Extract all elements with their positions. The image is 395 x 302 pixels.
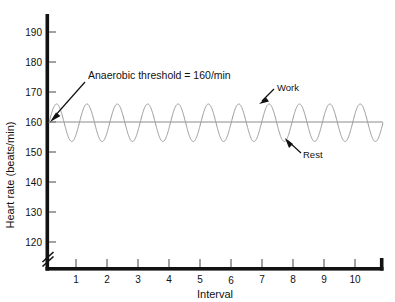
y-axis: 190 180 170 160 150 140 130 120 Heart ra… bbox=[4, 14, 56, 267]
rest-annotation-label: Rest bbox=[303, 149, 323, 160]
y-axis-bar bbox=[46, 14, 50, 260]
x-tick-label-4: 4 bbox=[166, 274, 172, 285]
threshold-annotation-label: Anaerobic threshold = 160/min bbox=[88, 69, 231, 81]
work-annotation-label: Work bbox=[277, 82, 299, 93]
x-tick-label-9: 9 bbox=[321, 274, 327, 285]
x-axis-ticks bbox=[76, 259, 355, 267]
x-tick-label-2: 2 bbox=[104, 274, 110, 285]
y-tick-label-180: 180 bbox=[25, 57, 42, 68]
y-tick-label-120: 120 bbox=[25, 237, 42, 248]
work-annotation: Work bbox=[259, 82, 299, 104]
x-tick-label-6: 6 bbox=[228, 275, 234, 286]
y-tick-label-170: 170 bbox=[25, 87, 42, 98]
x-tick-label-8: 8 bbox=[290, 274, 296, 285]
y-tick-label-150: 150 bbox=[25, 147, 42, 158]
rest-annotation: Rest bbox=[285, 138, 323, 160]
heart-rate-waveform bbox=[49, 104, 383, 142]
x-axis-tick-labels: 1 2 3 4 5 6 7 8 9 10 bbox=[73, 274, 361, 286]
x-tick-label-7: 7 bbox=[259, 274, 265, 285]
x-axis-title: Interval bbox=[197, 288, 233, 300]
y-tick-label-190: 190 bbox=[25, 27, 42, 38]
x-tick-label-3: 3 bbox=[135, 274, 141, 285]
chart-figure: 190 180 170 160 150 140 130 120 Heart ra… bbox=[0, 0, 395, 302]
x-tick-label-10: 10 bbox=[349, 274, 361, 285]
x-axis-bar bbox=[46, 267, 384, 271]
y-axis-tick-labels: 190 180 170 160 150 140 130 120 bbox=[25, 27, 42, 248]
y-tick-label-140: 140 bbox=[25, 177, 42, 188]
y-tick-label-160: 160 bbox=[25, 117, 42, 128]
y-axis-title: Heart rate (beats/min) bbox=[4, 122, 16, 229]
x-tick-label-5: 5 bbox=[197, 274, 203, 285]
y-tick-label-130: 130 bbox=[25, 207, 42, 218]
threshold-annotation: Anaerobic threshold = 160/min bbox=[50, 69, 231, 122]
rest-arrowhead bbox=[285, 138, 293, 148]
x-axis: 1 2 3 4 5 6 7 8 9 10 Interval bbox=[46, 258, 384, 300]
y-axis-ticks bbox=[49, 32, 56, 242]
x-tick-label-1: 1 bbox=[73, 274, 79, 285]
heart-rate-interval-chart: 190 180 170 160 150 140 130 120 Heart ra… bbox=[0, 0, 395, 302]
x-axis-left-cap bbox=[46, 258, 50, 271]
x-axis-right-cap bbox=[380, 258, 384, 271]
